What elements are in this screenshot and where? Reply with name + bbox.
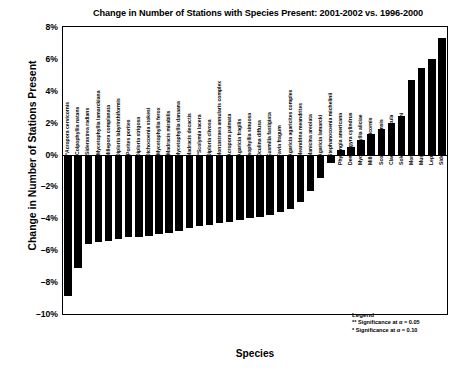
y-tick-label: –6% [0,246,58,255]
bar [175,155,182,232]
species-label: Agaricia fragilis [236,118,242,156]
species-label: *Colpophyllia natans [74,106,80,156]
species-label: Dendrogyra cylindrus [347,112,353,165]
bar [105,155,112,241]
bar [186,155,193,228]
y-tick-label: –4% [0,214,58,223]
species-label: Solenastrea bournoni [398,112,404,164]
species-label: Dichocoenia stokesi [145,107,151,156]
legend: Legend ** Significance at α = 0.05 * Sig… [352,311,448,334]
species-label: Meandrina meandrites [297,102,303,156]
bar [236,155,243,220]
species-label: *Madracis mirabilis [165,110,171,156]
species-label: Phyllangia americana [337,112,343,164]
species-label: Montastraea annularis complex [216,80,222,156]
species-label: Montastraea cavernosa [408,108,414,165]
bar [196,155,203,227]
species-label: Diploria labyrinthiformis [115,98,121,157]
y-tick-label: 6% [0,54,58,63]
species-label: Isophyllia sinuosa [246,112,252,156]
species-label: *Mycetophyllia ferox [155,107,161,157]
y-axis-tick-labels: 8%6%4%2%0%–2%–4%–6%–8%–10% [0,26,58,315]
species-label: Acropora palmata [226,113,232,156]
species-label: Mycetophyllia danaana [175,101,181,157]
species-label: *Siderastrea radians [84,107,90,156]
species-label: **Acropora cervicornis [64,101,70,156]
y-tick-label: –2% [0,182,58,191]
bar [246,155,253,219]
bar [95,155,102,243]
species-label: Millepora complanata [105,104,111,156]
species-label: Stephanocoenia michelinii [327,92,333,156]
y-tick-label: 4% [0,86,58,95]
species-label: Agaricia lamarcki [317,114,323,156]
bar [135,155,142,238]
bar [226,155,233,222]
y-tick-label: 2% [0,118,58,127]
species-label: Diploria strigosa [135,116,141,156]
species-label: Millepora alcicornis [367,117,373,165]
species-label: *Mycetophyllia lamarckiana [95,90,101,157]
bar [74,155,81,268]
legend-title: Legend [352,311,448,318]
y-tick-label: 0% [0,150,58,159]
bar [287,155,294,209]
bar [216,155,223,224]
plot-inner: **Acropora cervicornis*Colpophyllia nata… [63,27,447,314]
species-label: Leptoseris cucullata [428,115,434,164]
legend-entry-alpha-005: ** Significance at α = 0.05 [352,319,448,326]
x-axis-title: Species [62,348,448,359]
species-label: Agaricia agaricites complex [287,89,293,156]
species-label: Oculina diffusa [256,120,262,157]
species-label: Mycetophyllia aliciae [357,114,363,165]
species-label: Siderastrea siderea [438,118,444,165]
y-tick-label: –10% [0,310,58,319]
bar [64,155,71,297]
species-label: Mussa angulosa [418,125,424,165]
y-tick-label: 8% [0,23,58,32]
chart-title: Change in Number of Stations with Specie… [62,8,454,19]
bar [85,155,92,244]
bar [165,155,172,233]
species-label: Manicina areolata [307,114,313,157]
bar [125,155,132,238]
y-tick-label: –8% [0,278,58,287]
bar [256,155,263,217]
species-label: *Porites porites [125,119,131,157]
species-label: Madracis decactis [186,113,192,157]
bar [317,155,324,179]
bar [297,155,304,203]
species-label: Scolymia cubensis [378,119,384,165]
species-label: **Scolymia lacera [196,114,202,156]
bar [266,155,273,216]
legend-entry-alpha-010: * Significance at α = 0.10 [352,327,448,334]
bar [155,155,162,235]
bar [145,155,152,236]
bar [307,155,314,192]
bar [277,155,284,212]
bar-chart: Change in Number of Stations with Specie… [0,0,460,384]
species-label: Eusmilia fastigiata [266,112,272,157]
bar [206,155,213,225]
species-label: Cladocora arbuscula [388,114,394,164]
species-label: Favia fragum [276,125,282,157]
plot-area: **Acropora cervicornis*Colpophyllia nata… [62,26,448,315]
species-label: Diploria clivosa [206,119,212,157]
bar [115,155,122,240]
